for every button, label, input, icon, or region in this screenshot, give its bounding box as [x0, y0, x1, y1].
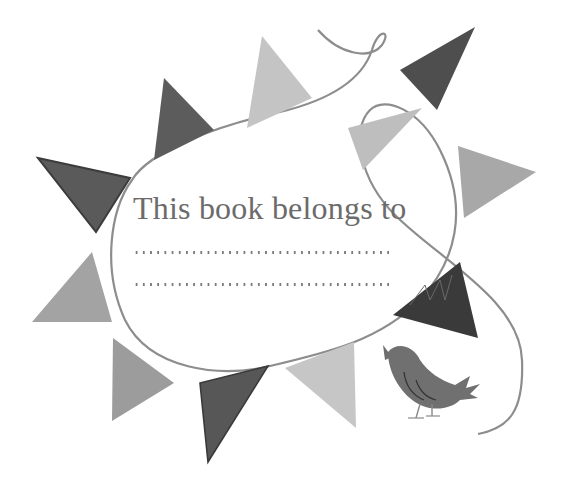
flag-light-bottom-right	[285, 342, 356, 428]
flag-dark-top-right	[400, 27, 475, 110]
bookplate-heading: This book belongs to	[133, 188, 393, 228]
flag-mid-left-lower	[32, 252, 112, 322]
flag-mid-right	[458, 146, 536, 218]
flag-dark-bottom-center	[200, 366, 268, 462]
flag-dark-left	[38, 158, 130, 232]
flag-dark-top	[154, 78, 214, 160]
name-line-1[interactable]	[133, 251, 391, 254]
flag-light-top	[247, 36, 312, 128]
flag-mid-bottom-left	[112, 338, 174, 421]
bird-icon	[383, 345, 480, 418]
bookplate-illustration: This book belongs to	[0, 0, 570, 489]
name-line-2[interactable]	[133, 283, 391, 286]
bunting-artwork	[0, 0, 570, 489]
flag-light-inner	[348, 108, 422, 170]
